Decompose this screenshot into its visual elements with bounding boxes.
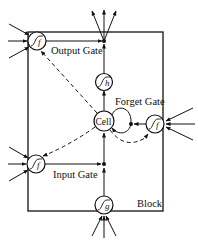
cell-input-arrows xyxy=(92,216,116,238)
block-output-arrows xyxy=(92,10,116,41)
output-gate-input-arrows xyxy=(8,24,29,58)
cell-input-activation-node: g xyxy=(95,196,113,214)
forget-gate-label: Forget Gate xyxy=(115,96,165,107)
output-gate-node: f xyxy=(28,32,46,50)
forget-multiplier-dot xyxy=(129,122,133,126)
output-gate-label: Output Gate xyxy=(51,45,103,56)
peephole-input xyxy=(43,127,95,156)
cell-output-activation-node: h xyxy=(96,74,113,91)
lstm-block-diagram: f Output Gate h Forget Gate Cell f xyxy=(0,0,198,244)
cell-label: Cell xyxy=(96,117,112,127)
h-symbol: h xyxy=(105,78,110,88)
input-gate-label: Input Gate xyxy=(53,169,98,180)
block-label: Block xyxy=(137,198,163,209)
forget-gate-input-arrows xyxy=(166,108,195,140)
forget-gate-node: f xyxy=(146,115,164,133)
cell-node: Cell xyxy=(94,111,114,131)
input-multiplier-dot xyxy=(102,162,106,166)
g-symbol: g xyxy=(105,201,110,211)
input-gate-input-arrows xyxy=(8,147,28,181)
input-gate-node: f xyxy=(27,155,45,173)
output-multiplier-dot xyxy=(102,39,106,43)
peephole-output xyxy=(41,51,97,113)
cell-recurrent-loop xyxy=(112,108,131,133)
